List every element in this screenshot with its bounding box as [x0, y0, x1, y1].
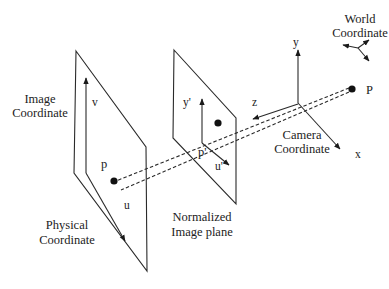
camera-x-axis-label: x [355, 148, 361, 160]
normalized-image-plane [173, 50, 236, 204]
world-point-label: P [366, 83, 373, 97]
world-point-P [348, 85, 355, 92]
normalized-plane-label-2: Image plane [171, 225, 233, 239]
image-coordinate-label-2: Coordinate [12, 106, 68, 120]
v-axis-label: v [92, 96, 98, 108]
camera-model-diagram: World Coordinate Image Coordinate Physic… [0, 0, 389, 289]
camera-y-axis-label: y [293, 36, 299, 49]
image-point-label: p [101, 157, 107, 171]
u-axis-label: u [124, 199, 130, 211]
world-coordinate-icon [343, 40, 369, 61]
u-prime-axis-label: u' [215, 160, 223, 172]
image-point-p [110, 177, 117, 184]
normalized-point-label: p' [198, 145, 207, 159]
physical-coordinate-label-2: Coordinate [39, 233, 95, 247]
camera-z-axis-label: z [252, 96, 257, 108]
physical-coordinate-label: Physical [46, 218, 89, 232]
normalized-plane-label: Normalized [172, 210, 232, 224]
u-axis-arrow [86, 173, 125, 241]
y-prime-axis-label: y' [183, 96, 191, 109]
image-coordinate-label: Image [24, 92, 56, 106]
normalized-point-p-prime [214, 119, 221, 126]
camera-coordinate-label-2: Coordinate [274, 142, 330, 156]
world-coordinate-label-2: Coordinate [332, 26, 388, 40]
camera-coordinate-label: Camera [283, 128, 322, 142]
world-coordinate-label: World [345, 12, 377, 26]
